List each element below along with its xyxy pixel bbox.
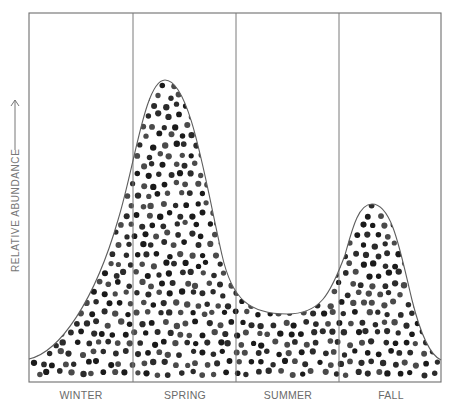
x-label-winter: WINTER [59, 389, 102, 401]
abundance-curve [29, 80, 441, 360]
plot-frame [29, 13, 441, 382]
x-label-fall: FALL [378, 389, 404, 401]
x-label-spring: SPRING [164, 389, 206, 401]
y-axis-label: RELATIVE ABUNDANCE [10, 149, 21, 272]
abundance-chart: RELATIVE ABUNDANCE WINTER SPRING SUMMER … [0, 0, 452, 411]
dot-fill-pattern [26, 80, 443, 378]
up-arrow-icon [11, 100, 19, 150]
y-axis-label-group: RELATIVE ABUNDANCE [10, 100, 21, 272]
x-label-summer: SUMMER [264, 389, 313, 401]
